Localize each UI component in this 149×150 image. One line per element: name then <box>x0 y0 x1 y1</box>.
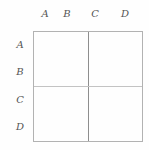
row-label-b: B <box>16 67 23 77</box>
column-label-c: C <box>91 9 99 19</box>
horizontal-divider <box>34 86 142 87</box>
row-label-a: A <box>16 40 23 50</box>
block-matrix-figure: A B C D A B C D <box>0 0 149 150</box>
matrix-grid <box>33 31 143 142</box>
column-label-d: D <box>121 9 129 19</box>
row-label-c: C <box>16 95 24 105</box>
column-label-a: A <box>41 9 48 19</box>
row-label-d: D <box>16 122 24 132</box>
column-label-b: B <box>63 9 70 19</box>
